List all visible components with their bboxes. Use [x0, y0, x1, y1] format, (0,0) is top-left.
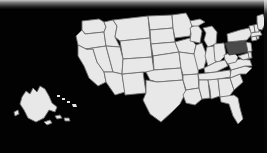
state-hawaii[interactable]	[57, 95, 77, 107]
state-wyoming[interactable]	[120, 38, 152, 59]
state-florida[interactable]	[220, 95, 243, 124]
screenshot-frame	[0, 0, 267, 153]
state-delaware[interactable]	[248, 52, 252, 58]
state-rhode-island[interactable]	[256, 36, 259, 39]
state-wisconsin[interactable]	[190, 24, 202, 43]
state-texas[interactable]	[143, 80, 186, 122]
state-north-dakota[interactable]	[148, 15, 173, 30]
state-south-dakota[interactable]	[150, 28, 175, 44]
us-map-svg	[0, 0, 267, 153]
state-minnesota[interactable]	[172, 13, 192, 38]
state-alaska[interactable]	[14, 86, 70, 125]
state-montana[interactable]	[113, 16, 150, 41]
state-new-york[interactable]	[227, 28, 252, 42]
right-edge-strip	[264, 0, 267, 153]
state-louisiana[interactable]	[183, 88, 202, 105]
us-map[interactable]	[0, 0, 267, 153]
state-new-mexico[interactable]	[122, 72, 146, 95]
state-ohio[interactable]	[214, 43, 226, 62]
state-arkansas[interactable]	[183, 74, 199, 90]
